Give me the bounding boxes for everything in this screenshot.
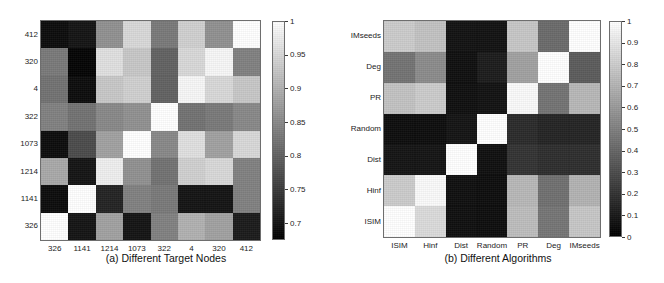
heatmap-cell bbox=[415, 114, 446, 145]
heatmap-cell bbox=[68, 21, 95, 48]
y-axis-tick-label: PR bbox=[370, 93, 381, 103]
heatmap-cell bbox=[123, 48, 150, 75]
heatmap-cell bbox=[205, 76, 232, 103]
colorbar-b bbox=[609, 21, 622, 237]
heatmap-cell bbox=[384, 144, 415, 175]
y-axis-tick-label: 322 bbox=[25, 112, 38, 122]
heatmap-cell bbox=[538, 52, 569, 83]
colorbar-tick-mark bbox=[285, 21, 288, 22]
colorbar-tick-label: 1 bbox=[290, 17, 294, 26]
colorbar-tick-label: 0.6 bbox=[627, 103, 638, 112]
colorbar-tick-mark bbox=[622, 237, 625, 238]
heatmap-cell bbox=[123, 158, 150, 185]
heatmap-cell bbox=[205, 131, 232, 158]
heatmap-a-grid bbox=[41, 21, 260, 240]
heatmap-cell bbox=[178, 21, 205, 48]
heatmap-cell bbox=[178, 103, 205, 130]
figure-root: 4123204322107312141141326 32611411214107… bbox=[0, 0, 664, 283]
heatmap-cell bbox=[96, 21, 123, 48]
colorbar-tick-label: 0.7 bbox=[290, 219, 301, 228]
colorbar-tick-mark bbox=[622, 64, 625, 65]
heatmap-cell bbox=[233, 131, 260, 158]
y-axis-tick-label: Deg bbox=[366, 62, 381, 72]
heatmap-cell bbox=[68, 76, 95, 103]
heatmap-cell bbox=[569, 21, 600, 52]
heatmap-cell bbox=[233, 185, 260, 212]
heatmap-cell bbox=[384, 114, 415, 145]
colorbar-tick-mark bbox=[285, 88, 288, 89]
heatmap-cell bbox=[123, 21, 150, 48]
colorbar-tick-mark bbox=[285, 55, 288, 56]
heatmap-cell bbox=[151, 213, 178, 240]
heatmap-cell bbox=[151, 103, 178, 130]
heatmap-cell bbox=[68, 131, 95, 158]
colorbar-tick-label: 0.75 bbox=[290, 185, 306, 194]
heatmap-cell bbox=[96, 185, 123, 212]
heatmap-cell bbox=[205, 158, 232, 185]
heatmap-cell bbox=[96, 131, 123, 158]
heatmap-cell bbox=[68, 185, 95, 212]
heatmap-cell bbox=[151, 158, 178, 185]
heatmap-b-y-axis: IMseedsDegPRRandomDistHinfISIM bbox=[332, 21, 381, 237]
heatmap-cell bbox=[178, 185, 205, 212]
colorbar-tick-label: 0.1 bbox=[627, 211, 638, 220]
heatmap-cell bbox=[41, 185, 68, 212]
colorbar-tick-label: 0.85 bbox=[290, 118, 306, 127]
heatmap-cell bbox=[446, 175, 477, 206]
y-axis-tick-label: 412 bbox=[25, 30, 38, 40]
heatmap-cell bbox=[178, 48, 205, 75]
heatmap-cell bbox=[384, 83, 415, 114]
heatmap-cell bbox=[415, 144, 446, 175]
colorbar-tick-label: 0.9 bbox=[290, 84, 301, 93]
heatmap-cell bbox=[415, 206, 446, 237]
heatmap-cell bbox=[538, 83, 569, 114]
colorbar-tick-label: 0.9 bbox=[627, 38, 638, 47]
heatmap-cell bbox=[123, 103, 150, 130]
heatmap-cell bbox=[68, 48, 95, 75]
heatmap-cell bbox=[446, 206, 477, 237]
heatmap-cell bbox=[233, 158, 260, 185]
y-axis-tick-label: 1141 bbox=[21, 194, 38, 204]
colorbar-tick-mark bbox=[285, 156, 288, 157]
y-axis-tick-label: Random bbox=[351, 124, 381, 134]
heatmap-cell bbox=[477, 175, 508, 206]
heatmap-cell bbox=[569, 144, 600, 175]
heatmap-cell bbox=[233, 21, 260, 48]
heatmap-cell bbox=[178, 158, 205, 185]
colorbar-tick-mark bbox=[622, 172, 625, 173]
heatmap-cell bbox=[569, 175, 600, 206]
heatmap-cell bbox=[233, 213, 260, 240]
y-axis-tick-label: 1214 bbox=[20, 167, 38, 177]
heatmap-cell bbox=[41, 131, 68, 158]
heatmap-cell bbox=[507, 114, 538, 145]
heatmap-cell bbox=[123, 76, 150, 103]
heatmap-cell bbox=[446, 144, 477, 175]
heatmap-cell bbox=[477, 206, 508, 237]
colorbar-tick-label: 0.8 bbox=[627, 60, 638, 69]
heatmap-cell bbox=[415, 83, 446, 114]
colorbar-tick-mark bbox=[622, 21, 625, 22]
heatmap-cell bbox=[507, 83, 538, 114]
heatmap-cell bbox=[178, 131, 205, 158]
heatmap-cell bbox=[96, 48, 123, 75]
panel-b: IMseedsDegPRRandomDistHinfISIM ISIMHinfD… bbox=[332, 0, 664, 283]
colorbar-tick-mark bbox=[622, 194, 625, 195]
panel-a-caption: (a) Different Target Nodes bbox=[0, 252, 332, 265]
heatmap-cell bbox=[123, 213, 150, 240]
y-axis-tick-label: Hinf bbox=[367, 186, 381, 196]
heatmap-cell bbox=[507, 144, 538, 175]
colorbar-tick-mark bbox=[285, 122, 288, 123]
heatmap-cell bbox=[151, 76, 178, 103]
y-axis-tick-label: 326 bbox=[25, 221, 38, 231]
heatmap-cell bbox=[477, 114, 508, 145]
heatmap-cell bbox=[507, 175, 538, 206]
heatmap-cell bbox=[96, 76, 123, 103]
heatmap-cell bbox=[507, 52, 538, 83]
colorbar-tick-label: 0.4 bbox=[627, 146, 638, 155]
heatmap-cell bbox=[507, 21, 538, 52]
colorbar-b-texture bbox=[610, 22, 621, 236]
y-axis-tick-label: 4 bbox=[34, 84, 38, 94]
colorbar-tick-label: 0.8 bbox=[290, 151, 301, 160]
x-axis-tick-label: IMseeds bbox=[554, 241, 616, 251]
heatmap-cell bbox=[123, 131, 150, 158]
